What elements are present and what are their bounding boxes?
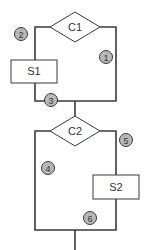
decision-c2: C2 [50,116,100,146]
badge-6-label: 6 [87,214,92,224]
decision-c2-label: C2 [68,125,82,137]
badge-5: 5 [120,134,133,147]
badge-5-label: 5 [123,136,128,146]
badge-1-label: 1 [103,53,108,63]
badge-4: 4 [42,162,55,175]
decision-c1-label: C1 [68,21,82,33]
statement-s2: S2 [93,175,139,199]
statement-s1: S1 [11,60,57,83]
edge-5-line [100,131,116,175]
badge-4-label: 4 [45,164,50,174]
badge-2-label: 2 [18,30,23,40]
statement-s2-label: S2 [109,181,122,193]
decision-c1: C1 [50,12,100,42]
badge-1: 1 [100,51,113,64]
statement-s1-label: S1 [27,65,40,77]
badge-3-label: 3 [48,96,53,106]
edge-2-line [35,27,50,60]
badge-3: 3 [45,94,58,107]
badge-2: 2 [15,28,28,41]
badge-6: 6 [84,212,97,225]
flow-diagram: C1 S1 C2 S2 1 2 3 4 5 6 [0,0,150,250]
